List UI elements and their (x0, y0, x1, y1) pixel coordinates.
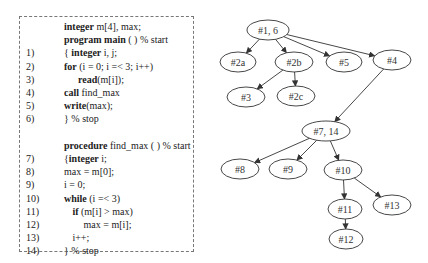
graph-node: #4 (373, 50, 411, 70)
graph-node: #9 (269, 159, 307, 179)
graph-node: #2b (275, 52, 313, 72)
node-label: #12 (339, 234, 354, 245)
graph-node: #11 (328, 199, 362, 219)
graph-nodes: #1, 6#2a#2b#5#4#3#2c#7, 14#8#9#10#11#13#… (220, 20, 411, 249)
graph-node: #10 (324, 160, 362, 180)
dependency-graph: #1, 6#2a#2b#5#4#3#2c#7, 14#8#9#10#11#13#… (0, 0, 428, 263)
edge-n1_6-to-n2a (246, 39, 259, 53)
node-label: #13 (385, 200, 400, 211)
node-label: #1, 6 (258, 25, 278, 36)
edge-n7_14-to-n8 (255, 138, 310, 162)
graph-node: #1, 6 (247, 20, 289, 40)
node-label: #4 (387, 55, 397, 66)
node-label: #11 (338, 204, 353, 215)
node-label: #2c (289, 91, 304, 102)
node-label: #3 (241, 92, 251, 103)
edge-n7_14-to-n10 (330, 141, 338, 160)
graph-node: #12 (329, 229, 363, 249)
node-label: #9 (283, 164, 293, 175)
node-label: #5 (339, 57, 349, 68)
edge-n10-to-n13 (354, 178, 380, 197)
edge-n10-to-n11 (344, 180, 345, 199)
graph-node: #2c (277, 86, 315, 106)
node-label: #10 (336, 165, 351, 176)
node-label: #8 (235, 164, 245, 175)
node-label: #7, 14 (314, 126, 339, 137)
graph-node: #5 (326, 52, 362, 72)
node-label: #2b (287, 57, 302, 68)
graph-node: #13 (373, 195, 411, 215)
edge-n1_6-to-n2b (276, 39, 287, 52)
edge-n2b-to-n3 (257, 70, 283, 89)
edge-n4-to-n7_14 (335, 69, 384, 122)
edge-n2b-to-n2c (295, 72, 296, 86)
graph-node: #2a (220, 52, 256, 72)
graph-node: #7, 14 (302, 121, 350, 141)
node-label: #2a (231, 57, 246, 68)
graph-node: #8 (221, 159, 259, 179)
graph-node: #3 (227, 87, 265, 107)
edge-n7_14-to-n9 (297, 140, 317, 160)
